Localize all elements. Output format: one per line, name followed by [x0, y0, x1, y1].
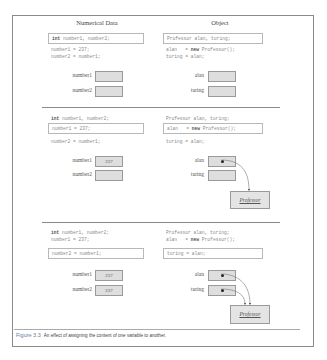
reference-arrows	[0, 0, 327, 360]
caption-text: An effect of assigning the content of on…	[44, 333, 166, 338]
caption-divider	[14, 329, 300, 330]
figure-number: Figure 3.3	[16, 332, 41, 338]
figure-caption: Figure 3.3An effect of assigning the con…	[16, 332, 166, 338]
